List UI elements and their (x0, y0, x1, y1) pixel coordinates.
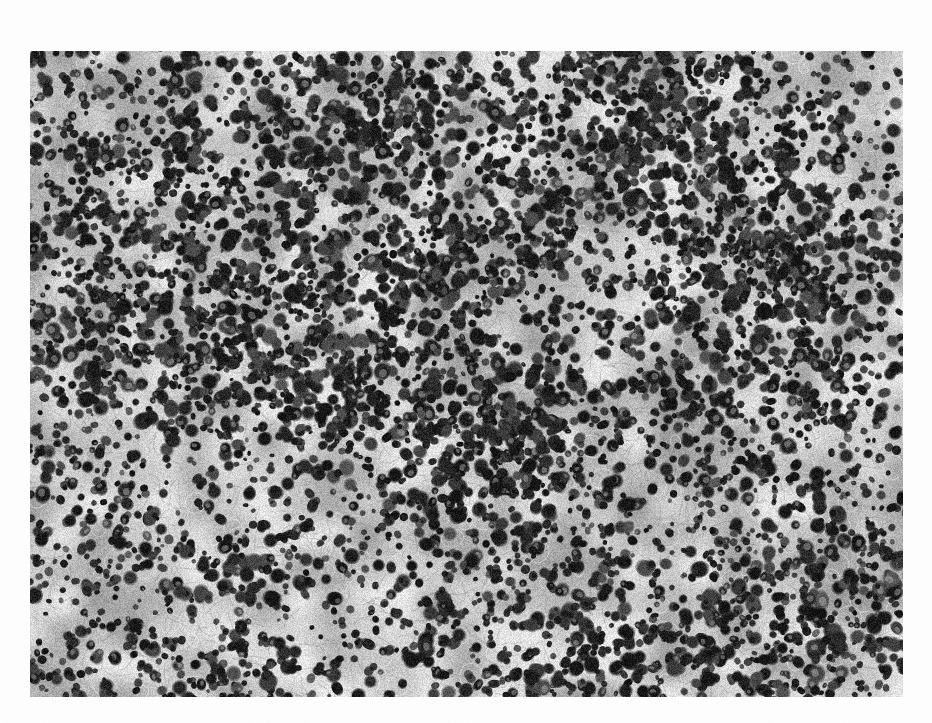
histopathology-micrograph (30, 51, 903, 697)
page-canvas (0, 0, 932, 723)
micrograph-image (30, 51, 903, 697)
